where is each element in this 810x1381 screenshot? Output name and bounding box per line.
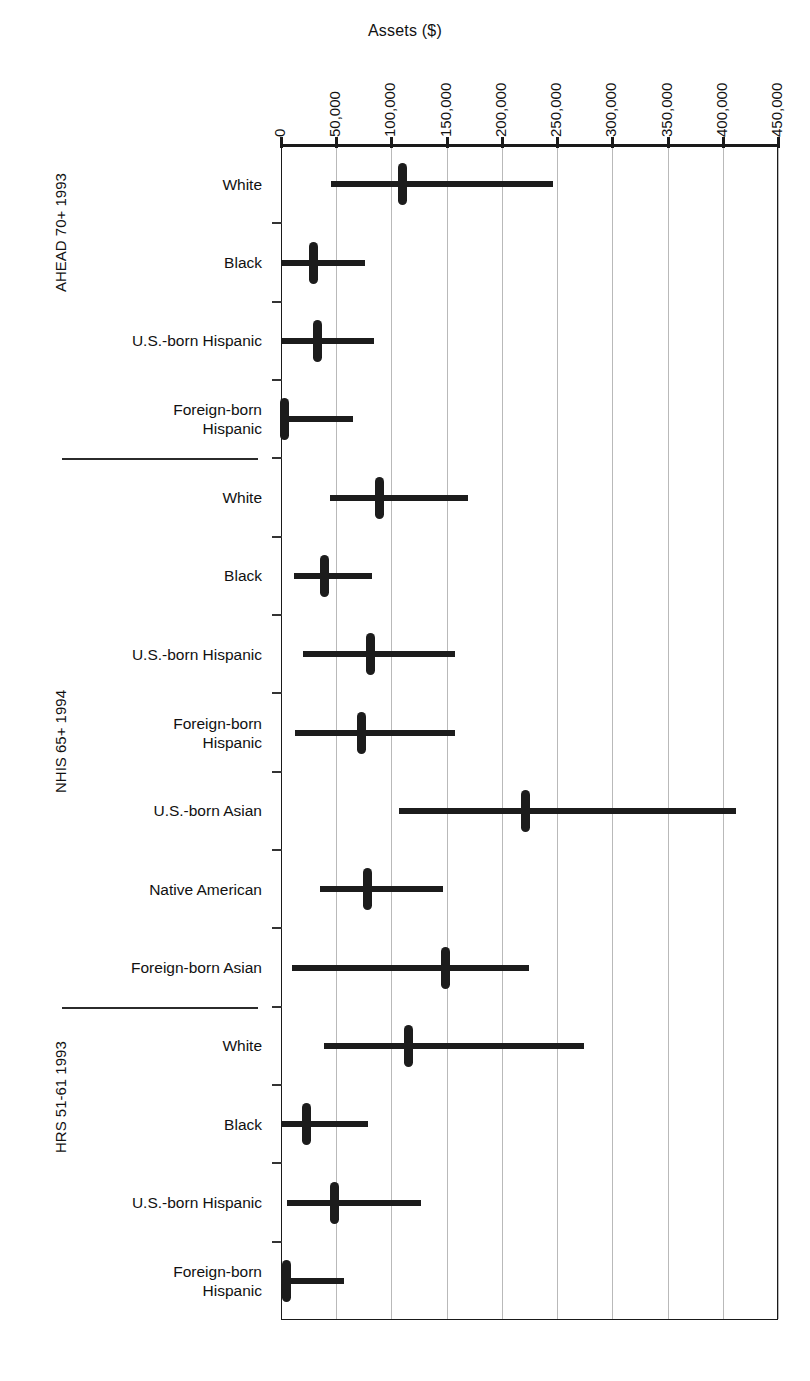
x-axis-tick-label: 0 — [272, 129, 287, 137]
range-bar — [281, 416, 353, 422]
range-bar — [281, 1121, 368, 1127]
x-axis-tick — [556, 137, 559, 148]
range-bar — [320, 886, 444, 892]
x-axis-tick — [777, 137, 780, 148]
row-label: Black — [224, 1115, 262, 1134]
y-axis-tick — [272, 927, 282, 929]
row-label: U.S.-born Hispanic — [132, 1193, 262, 1212]
row-label: Black — [224, 253, 262, 272]
median-marker — [330, 1182, 339, 1224]
y-axis-tick — [272, 771, 282, 773]
x-axis-tick — [667, 137, 670, 148]
row-label: U.S.-born Asian — [153, 801, 262, 820]
y-axis-tick — [272, 379, 282, 381]
group-separator — [62, 1007, 258, 1009]
median-marker — [375, 477, 384, 519]
range-bar — [282, 338, 374, 344]
range-bar — [287, 1200, 422, 1206]
gridline — [778, 146, 779, 1319]
median-marker — [309, 242, 318, 284]
x-axis-tick — [280, 137, 283, 148]
group-label: AHEAD 70+ 1993 — [52, 173, 69, 292]
row-label: Foreign-born Asian — [131, 958, 262, 977]
median-marker — [357, 712, 366, 754]
x-axis-tick-label: 350,000 — [659, 83, 674, 137]
y-axis-tick — [272, 1162, 282, 1164]
row-label: U.S.-born Hispanic — [132, 331, 262, 350]
range-bar — [324, 1043, 584, 1049]
row-label: White — [222, 175, 262, 194]
x-axis-tick-labels: 050,000100,000150,000200,000250,000300,0… — [0, 0, 810, 145]
median-marker — [320, 555, 329, 597]
x-axis-tick — [722, 137, 725, 148]
x-axis-tick-label: 450,000 — [769, 83, 784, 137]
x-axis-tick-label: 250,000 — [548, 83, 563, 137]
range-bar — [303, 651, 455, 657]
median-marker — [280, 398, 289, 440]
y-axis-group-tick — [272, 1006, 282, 1008]
median-marker — [441, 947, 450, 989]
range-bar — [399, 808, 736, 814]
row-label: White — [222, 1036, 262, 1055]
x-axis-tick — [446, 137, 449, 148]
x-axis-tick-label: 300,000 — [603, 83, 618, 137]
median-marker — [398, 163, 407, 205]
group-label: NHIS 65+ 1994 — [52, 690, 69, 793]
x-axis-tick-label: 150,000 — [438, 83, 453, 137]
median-marker — [282, 1260, 291, 1302]
x-axis-tick-label: 50,000 — [327, 91, 342, 137]
chart-canvas: Assets ($) 050,000100,000150,000200,0002… — [0, 0, 810, 1381]
gridline — [502, 146, 503, 1319]
y-axis-tick — [272, 692, 282, 694]
x-axis-tick — [335, 137, 338, 148]
row-label: U.S.-born Hispanic — [132, 645, 262, 664]
y-axis-tick — [272, 1084, 282, 1086]
gridline — [723, 146, 724, 1319]
gridline — [612, 146, 613, 1319]
y-axis-tick — [272, 614, 282, 616]
x-axis-tick — [501, 137, 504, 148]
median-marker — [404, 1025, 413, 1067]
range-bar — [292, 965, 529, 971]
range-bar — [330, 495, 468, 501]
range-bar — [282, 260, 365, 266]
y-axis-tick — [272, 536, 282, 538]
row-label: Native American — [149, 880, 262, 899]
group-separator — [62, 458, 258, 460]
y-axis-group-tick — [272, 457, 282, 459]
row-label: Foreign-born Hispanic — [173, 400, 262, 438]
gridline — [557, 146, 558, 1319]
x-axis-tick-label: 100,000 — [382, 83, 397, 137]
range-bar — [331, 181, 553, 187]
row-label: Foreign-born Hispanic — [173, 1262, 262, 1300]
range-bar — [294, 573, 371, 579]
median-marker — [521, 790, 530, 832]
gridline — [668, 146, 669, 1319]
range-bar — [295, 730, 455, 736]
x-axis-tick — [611, 137, 614, 148]
median-marker — [313, 320, 322, 362]
group-label: HRS 51-61 1993 — [52, 1042, 69, 1154]
row-label: White — [222, 488, 262, 507]
y-axis-tick — [272, 849, 282, 851]
x-axis-tick-label: 400,000 — [714, 83, 729, 137]
row-label: Black — [224, 566, 262, 585]
median-marker — [363, 868, 372, 910]
median-marker — [302, 1103, 311, 1145]
x-axis-tick-label: 200,000 — [493, 83, 508, 137]
y-axis-tick — [272, 222, 282, 224]
y-axis-tick — [272, 1241, 282, 1243]
x-axis-tick — [390, 137, 393, 148]
median-marker — [366, 633, 375, 675]
row-label: Foreign-born Hispanic — [173, 714, 262, 752]
y-axis-tick — [272, 301, 282, 303]
